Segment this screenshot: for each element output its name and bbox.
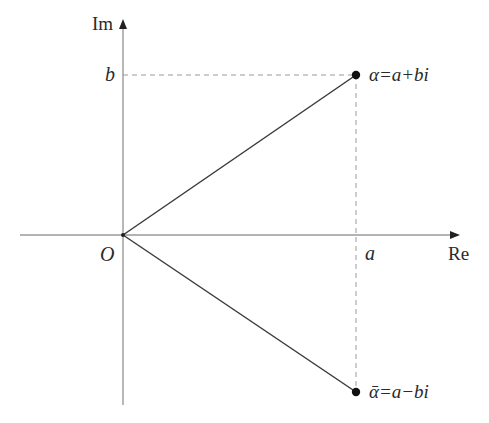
point-alpha-bar-label: ᾱ=a−bi	[369, 382, 429, 401]
point-alpha-label: α=a+bi	[369, 65, 429, 84]
point-alpha	[352, 71, 360, 79]
complex-plane-diagram: Im Re O b a α=a+bi ᾱ=a−bi	[0, 0, 489, 423]
real-axis-label: Re	[448, 244, 469, 263]
imaginary-axis-arrow-icon	[119, 19, 127, 29]
segment-origin-to-alpha	[123, 75, 356, 235]
tick-label-a: a	[365, 243, 375, 263]
point-alpha-bar	[352, 388, 360, 396]
tick-label-b: b	[105, 64, 115, 84]
origin-label: O	[100, 244, 114, 264]
real-axis-arrow-icon	[450, 231, 460, 239]
segment-origin-to-alpha-bar	[123, 235, 356, 392]
origin-dot	[121, 233, 125, 237]
imaginary-axis-label: Im	[92, 14, 113, 33]
